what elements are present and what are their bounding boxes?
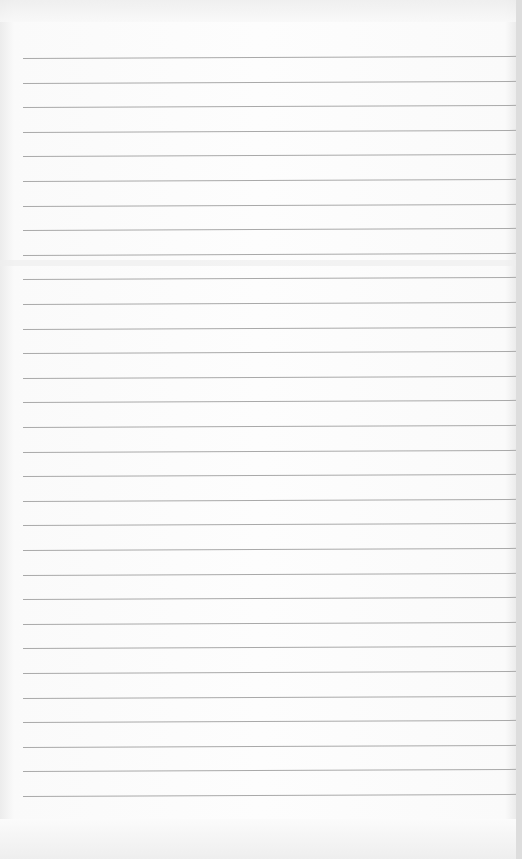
ruled-line [23, 474, 522, 477]
ruled-line [23, 130, 522, 133]
ruled-line [23, 548, 522, 551]
ruled-line [23, 302, 522, 305]
bleed-through-area [0, 0, 522, 22]
ruled-line [23, 499, 522, 502]
ruled-line [23, 646, 522, 649]
ruled-line [23, 154, 522, 157]
ruled-line [23, 228, 522, 231]
ruled-line [23, 745, 522, 748]
ruled-line [23, 794, 522, 797]
ruled-line [23, 597, 522, 600]
ruled-line [23, 622, 522, 625]
ruled-line [23, 326, 522, 329]
ruled-line [23, 179, 522, 182]
page-bottom-margin [0, 819, 522, 859]
ruled-line [23, 671, 522, 674]
ruled-line [23, 56, 522, 59]
ruled-line [23, 425, 522, 428]
scan-artifact-band [0, 260, 522, 266]
ruled-line [23, 720, 522, 723]
ruled-line [23, 769, 522, 772]
ruled-line [23, 572, 522, 575]
ruled-line [23, 376, 522, 379]
ruled-line [23, 105, 522, 108]
ruled-line [23, 80, 522, 83]
ruled-line [23, 277, 522, 280]
ruled-line [23, 695, 522, 698]
ruled-line [23, 449, 522, 452]
ruled-line [23, 400, 522, 403]
page-right-edge [516, 0, 522, 859]
ruled-page [0, 0, 522, 859]
ruled-line [23, 203, 522, 206]
ruled-line [23, 253, 522, 256]
ruled-line [23, 351, 522, 354]
ruled-line [23, 523, 522, 526]
